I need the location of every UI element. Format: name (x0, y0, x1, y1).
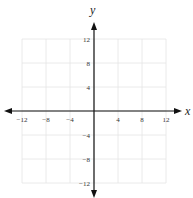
x-tick-labels: −12−8−44812 (17, 116, 170, 124)
y-tick-label: 8 (87, 60, 91, 68)
x-axis-left-arrow-icon (4, 108, 12, 114)
axes (4, 22, 182, 198)
y-axis-label: y (89, 3, 96, 17)
x-axis-right-arrow-icon (174, 108, 182, 114)
x-axis-label: x (184, 104, 191, 118)
x-tick-label: −4 (66, 116, 74, 124)
x-tick-label: 12 (163, 116, 171, 124)
y-axis-up-arrow-icon (91, 22, 97, 30)
y-tick-label: −8 (83, 156, 91, 164)
y-tick-label: 12 (83, 36, 91, 44)
x-tick-label: 4 (116, 116, 120, 124)
y-tick-label: −4 (83, 132, 91, 140)
x-tick-label: −12 (17, 116, 28, 124)
x-tick-label: 8 (140, 116, 144, 124)
y-tick-label: −12 (79, 180, 90, 188)
x-tick-label: −8 (42, 116, 50, 124)
coordinate-plane: x y −12−8−44812 1284−4−8−12 (0, 0, 193, 198)
y-axis-down-arrow-icon (91, 190, 97, 198)
y-tick-label: 4 (87, 84, 91, 92)
